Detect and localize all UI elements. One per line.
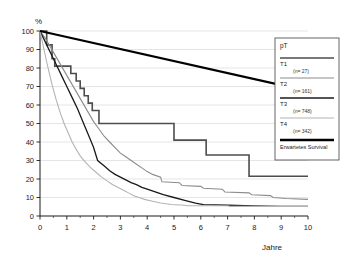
svg-text:5: 5	[172, 223, 176, 232]
legend-box	[275, 38, 339, 160]
x-axis-tick-labels: 012345678910	[38, 223, 312, 232]
legend-label-4: T4	[280, 121, 288, 127]
svg-text:9: 9	[279, 223, 283, 232]
svg-text:100: 100	[21, 27, 34, 36]
kaplan-meier-chart: 012345678910 0102030405060708090100 % Ja…	[0, 0, 351, 263]
legend-label-5: Erwartetes Survival	[280, 144, 327, 150]
svg-text:60: 60	[26, 101, 34, 110]
svg-text:0: 0	[30, 212, 34, 221]
svg-text:30: 30	[26, 156, 34, 165]
svg-text:7: 7	[226, 223, 230, 232]
svg-text:0: 0	[38, 223, 42, 232]
svg-text:8: 8	[252, 223, 256, 232]
x-axis-ticks	[40, 216, 308, 220]
survival-curves	[40, 31, 308, 206]
svg-text:1: 1	[65, 223, 69, 232]
legend-count-2: (n= 161)	[293, 88, 312, 94]
svg-text:6: 6	[199, 223, 203, 232]
legend-count-1: (n= 27)	[293, 68, 309, 74]
curve-t4	[40, 31, 308, 206]
svg-text:50: 50	[26, 119, 34, 128]
legend: pT T1(n= 27)T2(n= 161)T3(n= 748)T4(n= 34…	[275, 38, 339, 160]
legend-label-3: T3	[280, 101, 288, 107]
y-axis-title: %	[35, 17, 42, 26]
legend-label-1: T1	[280, 61, 288, 67]
svg-text:40: 40	[26, 138, 34, 147]
svg-text:70: 70	[26, 82, 34, 91]
legend-title: pT	[280, 42, 288, 50]
curve-t1	[40, 31, 308, 176]
survival-chart-figure: 012345678910 0102030405060708090100 % Ja…	[0, 0, 351, 263]
svg-text:2: 2	[92, 223, 96, 232]
x-axis-title: Jahre	[262, 243, 283, 252]
y-axis-ticks	[37, 31, 41, 216]
curve-t3	[40, 31, 308, 206]
legend-label-2: T2	[280, 81, 288, 87]
svg-text:80: 80	[26, 64, 34, 73]
svg-text:4: 4	[145, 223, 149, 232]
svg-text:10: 10	[304, 223, 312, 232]
legend-count-3: (n= 748)	[293, 108, 312, 114]
y-axis-tick-labels: 0102030405060708090100	[21, 27, 34, 221]
svg-text:90: 90	[26, 45, 34, 54]
svg-text:10: 10	[26, 193, 34, 202]
legend-count-4: (n= 342)	[293, 128, 312, 134]
svg-text:3: 3	[118, 223, 122, 232]
svg-text:20: 20	[26, 175, 34, 184]
